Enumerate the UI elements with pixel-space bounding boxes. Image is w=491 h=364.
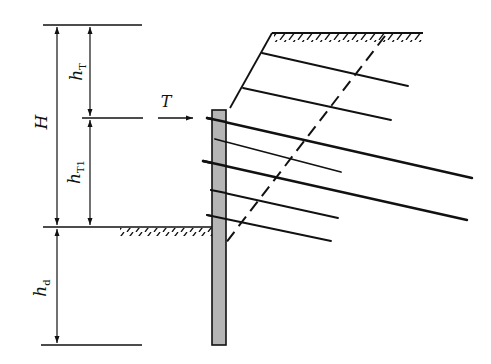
anchor-force-T: T xyxy=(158,92,193,118)
ground-hatch-bottom xyxy=(120,228,212,236)
ground-hatch-top xyxy=(274,34,422,42)
label-hT: hT xyxy=(66,63,88,81)
soil-nail-4 xyxy=(211,190,338,218)
label-H: H xyxy=(31,113,51,130)
dimension-labels: H hT hT1 hd xyxy=(30,63,88,297)
label-T: T xyxy=(161,92,173,111)
slope-face xyxy=(230,33,272,108)
retaining-pile xyxy=(212,110,226,345)
label-hT1: hT1 xyxy=(64,160,86,184)
top-ground-surface xyxy=(272,33,423,42)
excavation-ground xyxy=(120,228,212,236)
label-hd: hd xyxy=(30,279,52,297)
retaining-wall-diagram: H hT hT1 hd T xyxy=(0,0,491,364)
soil-nail-2 xyxy=(243,88,391,120)
anchors xyxy=(203,53,472,241)
soil-nail-1 xyxy=(262,53,408,86)
